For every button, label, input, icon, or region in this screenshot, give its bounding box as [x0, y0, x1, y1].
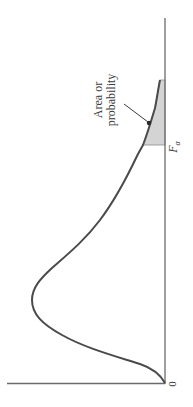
annotation-arrow — [124, 104, 148, 122]
density-curve — [32, 80, 165, 383]
f-alpha-subscript: α — [173, 140, 182, 145]
f-alpha-label: Fα — [166, 140, 182, 153]
annotation-line2: probability — [104, 74, 118, 127]
f-distribution-diagram: Area or probability 0 Fα — [0, 0, 193, 407]
origin-label: 0 — [166, 381, 178, 387]
arrow-head-icon — [147, 121, 151, 125]
annotation-line1: Area or — [91, 82, 105, 118]
